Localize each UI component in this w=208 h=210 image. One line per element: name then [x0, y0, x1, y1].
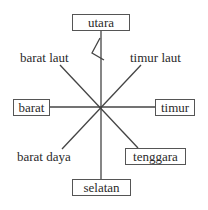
northwest-label: barat laut: [20, 51, 69, 65]
east-label: timur: [161, 101, 189, 115]
south-label: selatan: [83, 181, 119, 195]
southwest-label: barat daya: [17, 150, 71, 164]
southeast-box: tenggara: [125, 148, 186, 165]
north-arrow-icon: [92, 38, 104, 60]
north-box: utara: [72, 14, 130, 31]
west-box: barat: [13, 99, 50, 116]
north-label: utara: [88, 16, 114, 30]
northeast-label: timur laut: [130, 51, 181, 65]
south-box: selatan: [72, 179, 131, 196]
southeast-label: tenggara: [133, 150, 178, 164]
east-box: timur: [155, 99, 195, 116]
west-label: barat: [19, 101, 45, 115]
